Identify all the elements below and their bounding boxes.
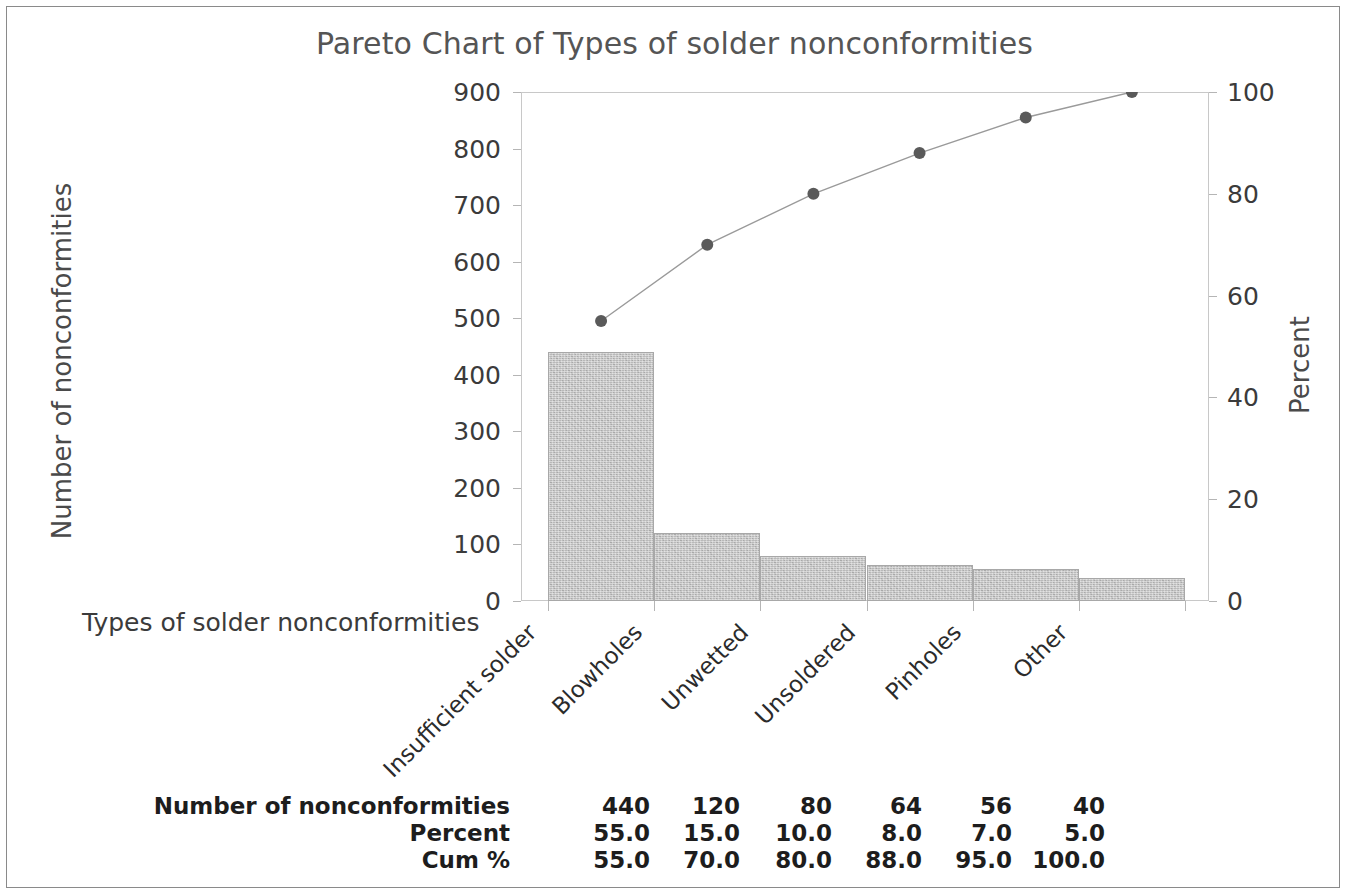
y-axis-title-left: Number of nonconformities — [47, 151, 77, 571]
x-axis-category-label: Unsoldered — [749, 619, 860, 730]
table-row-label: Number of nonconformities — [0, 793, 510, 819]
table-cell: 100.0 — [995, 847, 1105, 873]
y-axis-tick-left — [513, 262, 521, 263]
pareto-chart-figure: Pareto Chart of Types of solder nonconfo… — [0, 0, 1349, 896]
table-row: Number of nonconformities44012080645640 — [0, 793, 1349, 820]
x-axis-tick — [973, 601, 974, 611]
y-axis-tick-left — [513, 488, 521, 489]
y-axis-tick-label-right: 100 — [1227, 78, 1297, 107]
table-row: Cum %55.070.080.088.095.0100.0 — [0, 847, 1349, 874]
y-axis-tick-left — [513, 318, 521, 319]
x-axis-tick — [760, 601, 761, 611]
y-axis-tick-right — [1209, 499, 1217, 500]
x-axis-tick — [548, 601, 549, 611]
x-axis-tick — [1185, 601, 1186, 611]
y-axis-tick-left — [513, 149, 521, 150]
y-axis-tick-right — [1209, 397, 1217, 398]
y-axis-tick-label-left: 500 — [421, 304, 501, 333]
table-row: Percent55.015.010.08.07.05.0 — [0, 820, 1349, 847]
data-table: Number of nonconformities44012080645640P… — [0, 793, 1349, 874]
y-axis-tick-right — [1209, 296, 1217, 297]
x-axis-category-label: Insufficient solder — [378, 619, 541, 782]
x-axis-category-label: Other — [1008, 619, 1073, 684]
x-axis-tick — [867, 601, 868, 611]
y-axis-tick-left — [513, 375, 521, 376]
x-axis-title: Types of solder nonconformities — [82, 608, 479, 637]
y-axis-tick-label-left: 400 — [421, 360, 501, 389]
x-axis-category-label: Unwetted — [657, 619, 754, 716]
table-row-label: Percent — [0, 820, 510, 846]
y-axis-tick-right — [1209, 601, 1217, 602]
y-axis-tick-label-left: 800 — [421, 134, 501, 163]
y-axis-tick-left — [513, 544, 521, 545]
y-axis-tick-label-left: 200 — [421, 473, 501, 502]
y-axis-title-right: Percent — [1285, 235, 1315, 495]
y-axis-tick-left — [513, 92, 521, 93]
y-axis-tick-label-left: 900 — [421, 78, 501, 107]
y-axis-tick-left — [513, 431, 521, 432]
x-axis-category-label: Blowholes — [547, 619, 648, 720]
y-axis-tick-right — [1209, 194, 1217, 195]
y-axis-tick-left — [513, 205, 521, 206]
y-axis-tick-right — [1209, 92, 1217, 93]
table-cell: 40 — [995, 793, 1105, 819]
x-axis-tick — [654, 601, 655, 611]
table-row-label: Cum % — [0, 847, 510, 873]
y-axis-tick-left — [513, 601, 521, 602]
axis-layer: 0100200300400500600700800900020406080100… — [0, 0, 1349, 896]
y-axis-tick-label-left: 100 — [421, 530, 501, 559]
x-axis-tick — [1079, 601, 1080, 611]
y-axis-tick-label-right: 0 — [1227, 587, 1297, 616]
table-cell: 5.0 — [995, 820, 1105, 846]
y-axis-tick-label-left: 300 — [421, 417, 501, 446]
y-axis-tick-label-left: 700 — [421, 191, 501, 220]
x-axis-category-label: Pinholes — [880, 619, 966, 705]
y-axis-tick-label-left: 600 — [421, 247, 501, 276]
y-axis-tick-label-right: 80 — [1227, 179, 1297, 208]
